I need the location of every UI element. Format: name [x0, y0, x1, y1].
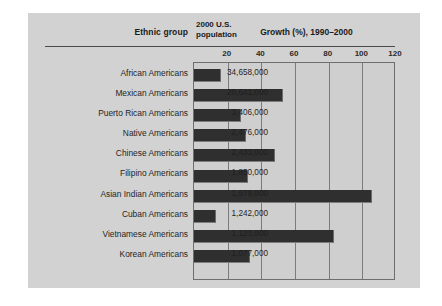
row-value-population: 1,679,000 — [194, 189, 268, 198]
x-tick-label-100: 100 — [355, 49, 368, 58]
row-value-population: 20,641,000 — [194, 88, 268, 97]
x-axis-tick-labels: 20406080100120 — [28, 49, 420, 63]
row-value-population: 2,476,000 — [194, 128, 268, 137]
chart-row: Native Americans2,476,000 — [28, 124, 420, 144]
row-value-population: 1,123,000 — [194, 229, 268, 238]
row-label-ethnic-group: Filipino Americans — [30, 168, 188, 178]
row-value-population: 34,658,000 — [194, 68, 268, 77]
chart-row: Puerto Rican Americans3,406,000 — [28, 104, 420, 124]
chart-row: Asian Indian Americans1,679,000 — [28, 185, 420, 205]
x-tick-label-60: 60 — [290, 49, 299, 58]
x-tick-label-40: 40 — [256, 49, 265, 58]
x-tick-label-120: 120 — [388, 49, 401, 58]
chart-figure: Ethnic group 2000 U.S. population Growth… — [28, 13, 420, 288]
column-header-ethnic-group: Ethnic group — [58, 27, 188, 37]
x-tick-label-80: 80 — [323, 49, 332, 58]
row-value-population: 2,433,000 — [194, 148, 268, 157]
row-label-ethnic-group: Native Americans — [30, 128, 188, 138]
row-value-population: 1,242,000 — [194, 209, 268, 218]
chart-row: Mexican Americans20,641,000 — [28, 84, 420, 104]
x-tick-label-20: 20 — [222, 49, 231, 58]
header-rule-left — [45, 46, 273, 47]
chart-row: Chinese Americans2,433,000 — [28, 144, 420, 164]
row-label-ethnic-group: African Americans — [30, 68, 188, 78]
row-label-ethnic-group: Chinese Americans — [30, 148, 188, 158]
row-label-ethnic-group: Cuban Americans — [30, 209, 188, 219]
chart-rows: African Americans34,658,000Mexican Ameri… — [28, 64, 420, 278]
row-value-population: 3,406,000 — [194, 108, 268, 117]
row-label-ethnic-group: Puerto Rican Americans — [30, 108, 188, 118]
chart-row: Vietnamese Americans1,123,000 — [28, 225, 420, 245]
row-label-ethnic-group: Asian Indian Americans — [30, 189, 188, 199]
row-label-ethnic-group: Korean Americans — [30, 249, 188, 259]
chart-row: Korean Americans1,077,000 — [28, 245, 420, 265]
header-rule-right — [273, 46, 395, 47]
row-value-population: 1,850,000 — [194, 168, 268, 177]
chart-row: African Americans34,658,000 — [28, 64, 420, 84]
chart-title-growth: Growth (%), 1990–2000 — [193, 27, 420, 37]
row-value-population: 1,077,000 — [194, 249, 268, 258]
row-label-ethnic-group: Vietnamese Americans — [30, 229, 188, 239]
chart-row: Cuban Americans1,242,000 — [28, 205, 420, 225]
row-label-ethnic-group: Mexican Americans — [30, 88, 188, 98]
chart-row: Filipino Americans1,850,000 — [28, 164, 420, 184]
